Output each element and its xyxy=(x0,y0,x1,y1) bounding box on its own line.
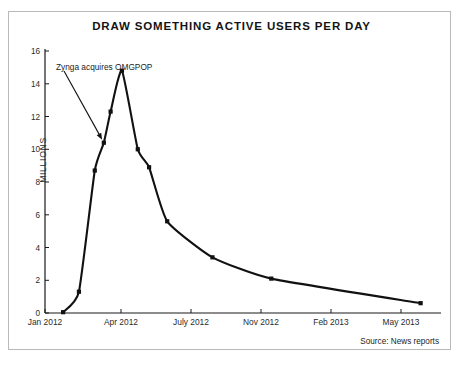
data-series-line xyxy=(63,70,421,312)
data-point-marker xyxy=(93,168,97,172)
y-tick-label-14: 14 xyxy=(31,80,41,89)
y-tick-label-12: 12 xyxy=(31,113,41,122)
data-point-marker xyxy=(61,310,65,314)
data-point-marker xyxy=(102,141,106,145)
y-tick-label-2: 2 xyxy=(35,276,40,285)
x-tick-label-july-2012: July 2012 xyxy=(173,317,209,327)
x-tick-label-may-2013: May 2013 xyxy=(383,317,420,327)
data-point-marker xyxy=(109,109,113,113)
source-note: Source: News reports xyxy=(360,337,439,346)
x-tick-label-apr-2012: Apr 2012 xyxy=(104,317,138,327)
data-point-marker xyxy=(77,290,81,294)
y-tick-label-6: 6 xyxy=(35,211,40,220)
x-tick-label-nov-2012: Nov 2012 xyxy=(243,317,279,327)
data-point-markers xyxy=(61,69,423,315)
y-tick-label-4: 4 xyxy=(35,244,40,253)
data-point-marker xyxy=(147,165,151,169)
data-point-marker xyxy=(269,277,273,281)
data-point-marker xyxy=(165,219,169,223)
y-tick-label-16: 16 xyxy=(31,47,41,56)
y-axis-title: MILLIONS xyxy=(38,125,48,195)
annotation-zynga-acquires-omgpop: Zynga acquires OMGPOP xyxy=(56,62,152,72)
chart-figure: DRAW SOMETHING ACTIVE USERS PER DAY 16 1… xyxy=(0,0,463,374)
x-tick-label-feb-2013: Feb 2013 xyxy=(313,317,349,327)
line-chart-plot: 16 14 12 10 8 6 4 2 0 Jan 2012 Apr 2012 … xyxy=(0,0,463,374)
annotation-arrow xyxy=(64,71,102,140)
data-point-marker xyxy=(210,255,214,259)
x-tick-label-jan-2012: Jan 2012 xyxy=(28,317,63,327)
data-point-marker xyxy=(419,301,423,305)
data-point-marker xyxy=(136,147,140,151)
